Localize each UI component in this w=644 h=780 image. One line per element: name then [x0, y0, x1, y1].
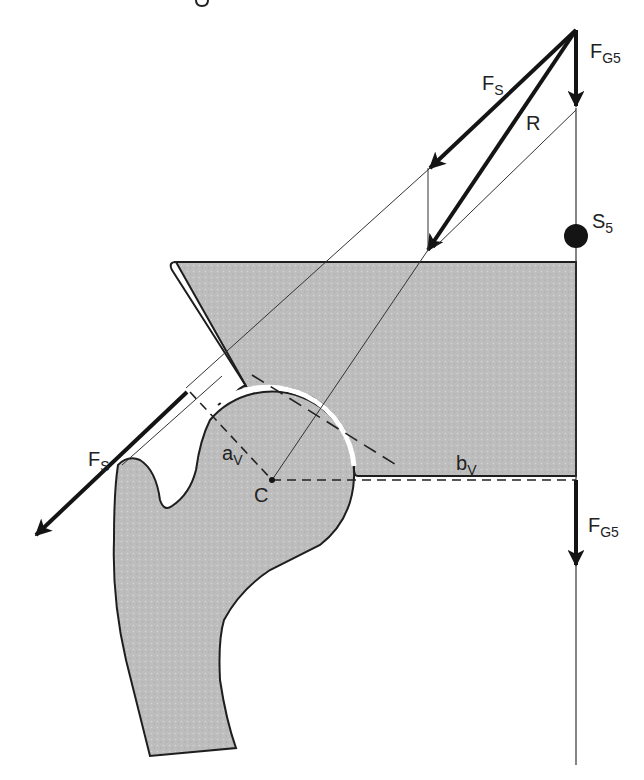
label-fs-bottom: FS — [88, 448, 110, 474]
label-s5: S5 — [592, 210, 613, 236]
r-arrow — [428, 30, 576, 250]
cropped-caption-fragment — [196, 0, 208, 6]
label-c: C — [254, 484, 268, 506]
label-fg5-top: FG5 — [590, 40, 621, 66]
label-fs-top: FS — [482, 72, 504, 98]
hip-force-diagram: FG5 FS R S5 FS aV C bV FG5 — [0, 0, 644, 780]
femur-shape — [114, 392, 354, 756]
s5-center-of-gravity — [564, 224, 588, 248]
c-center-of-rotation — [269, 477, 275, 483]
r-parallel-guide — [434, 110, 576, 248]
fs-top-arrow — [430, 30, 576, 168]
label-r: R — [526, 112, 540, 134]
label-fg5-bottom: FG5 — [588, 514, 619, 540]
